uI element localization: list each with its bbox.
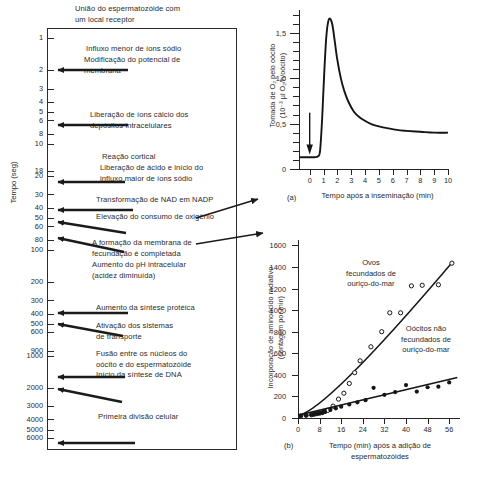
panel-connector-arrows xyxy=(0,0,477,478)
figure-root: União do espermatozóide com um local rec… xyxy=(0,0,477,478)
